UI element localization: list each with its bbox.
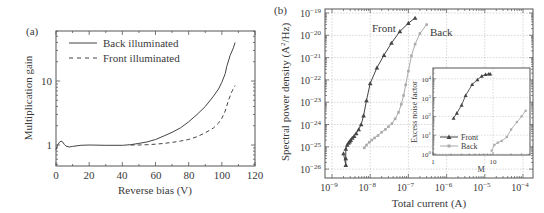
xtick-label: 0: [53, 169, 59, 181]
inset-legend-back: Back: [461, 142, 477, 151]
panel-b-ytick-labels: 10−1910−2010−2110−2210−2310−2410−2510−26: [300, 7, 321, 175]
panel-b-ylabel: Spectral power density (A2/Hz): [279, 23, 292, 162]
panel-b-xlabel: Total current (A): [392, 197, 467, 210]
ytick-label: 10−21: [300, 52, 321, 64]
inset-ytick-labels: 100101102103104: [422, 75, 432, 159]
ytick-label: 10−20: [300, 29, 321, 41]
ytick-label: 10−26: [300, 163, 321, 175]
inset-ylabel: Excess noise factor: [410, 81, 419, 143]
front-series: [341, 16, 417, 167]
inset-ytick-label: 104: [422, 75, 432, 84]
legend-back-label: Back illuminated: [103, 37, 179, 49]
inset-ytick-label: 100: [422, 150, 432, 159]
inset-xtick-label: 10: [490, 158, 498, 166]
xtick-label: 80: [184, 169, 196, 181]
xtick-label: 10−7: [397, 181, 415, 193]
xtick-label: 10−6: [435, 181, 453, 193]
panel-a-xlabel: Reverse bias (V): [118, 184, 192, 197]
ytick-label: 1: [47, 139, 53, 151]
panel-a-ytick-labels: 1 10: [41, 75, 53, 151]
ytick-label: 10: [41, 75, 53, 87]
panel-a-legend: Back illuminated Front illuminated: [69, 37, 180, 64]
xtick-label: 10−9: [320, 181, 338, 193]
panel-b-label: (b): [274, 4, 287, 17]
panel-b-xtick-labels: 10−910−810−710−610−510−4: [320, 181, 529, 193]
ytick-label: 10−25: [300, 141, 321, 153]
xtick-label: 10−5: [473, 181, 491, 193]
legend-front-label: Front illuminated: [103, 52, 180, 64]
front-illuminated-curve: [131, 86, 236, 146]
inset-ytick-label: 101: [422, 131, 432, 140]
annotation-back: Back: [430, 26, 453, 38]
xtick-label: 120: [247, 169, 264, 181]
xtick-label: 60: [151, 169, 163, 181]
ytick-label: 10−19: [300, 7, 321, 19]
ytick-label: 10−23: [300, 96, 321, 108]
xtick-label: 100: [214, 169, 231, 181]
inset-legend-front: Front: [461, 133, 479, 142]
xtick-label: 10−4: [511, 181, 529, 193]
inset-xlabel: M: [477, 165, 484, 174]
inset-ytick-label: 103: [422, 94, 432, 103]
annotation-front: Front: [372, 22, 396, 34]
inset-chart: 100101102103104 1 10 M Excess noise fact…: [410, 68, 530, 174]
square-marker-icon: [448, 145, 451, 148]
inset-ytick-label: 102: [422, 112, 432, 121]
panel-b: (b) 10−910−810−710−610−510−4 10−1910−201…: [274, 4, 533, 210]
figure-canvas: (a) 0 20 40 60 80 100 120 1 10 Reverse b…: [0, 0, 544, 213]
panel-a: (a) 0 20 40 60 80 100 120 1 10 Reverse b…: [22, 25, 264, 197]
inset-background: [433, 68, 530, 155]
ylabel-main: Spectral power density (A: [279, 46, 292, 161]
xtick-label: 20: [84, 169, 96, 181]
ytick-label: 10−22: [300, 74, 321, 86]
panel-a-xtick-labels: 0 20 40 60 80 100 120: [53, 169, 264, 181]
xtick-label: 10−8: [358, 181, 376, 193]
xtick-label: 40: [117, 169, 129, 181]
inset-xtick-label: 1: [431, 158, 435, 166]
panel-a-label: (a): [26, 25, 39, 38]
ytick-label: 10−24: [300, 119, 321, 131]
ylabel-end: /Hz): [279, 23, 292, 43]
panel-a-ylabel: Multiplication gain: [22, 55, 34, 140]
